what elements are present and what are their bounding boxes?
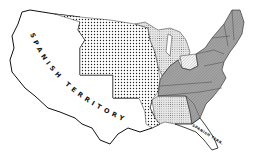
region-mississippi-territory xyxy=(152,96,192,124)
historical-us-map: SPANISH TERRITORY SPANISH TERR. xyxy=(0,0,254,154)
